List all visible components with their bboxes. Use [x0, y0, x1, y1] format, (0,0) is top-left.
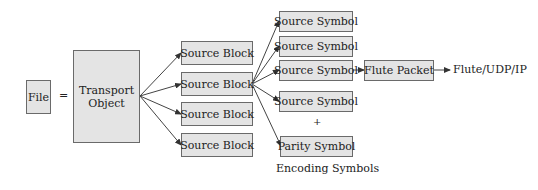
file-box: File [26, 80, 51, 114]
equals-sign: = [59, 89, 68, 102]
source-block-2: Source Block [181, 72, 253, 96]
source-symbol-label: Source Symbol [274, 40, 358, 53]
source-block-label: Source Block [180, 78, 254, 91]
source-block-label: Source Block [180, 108, 254, 121]
source-block-4: Source Block [181, 133, 253, 157]
file-label: File [28, 91, 49, 104]
source-symbol-label: Source Symbol [274, 15, 358, 28]
flute-packet: Flute Packet [364, 60, 434, 81]
source-symbol-1: Source Symbol [279, 11, 353, 32]
source-block-1: Source Block [181, 41, 253, 65]
source-block-label: Source Block [180, 139, 254, 152]
source-symbol-3: Source Symbol [279, 60, 353, 81]
plus-sign: + [313, 116, 321, 127]
transport-object-line1: Transport [79, 84, 134, 97]
source-symbol-label: Source Symbol [274, 64, 358, 77]
transport-object-box: Transport Object [73, 50, 140, 143]
flute-packet-label: Flute Packet [364, 64, 434, 77]
parity-symbol: Parity Symbol [280, 136, 353, 157]
source-symbol-2: Source Symbol [279, 36, 353, 57]
encoding-symbols-caption: Encoding Symbols [276, 162, 379, 175]
source-symbol-4: Source Symbol [279, 91, 353, 112]
parity-symbol-label: Parity Symbol [278, 140, 356, 153]
source-block-3: Source Block [181, 102, 253, 126]
source-block-label: Source Block [180, 47, 254, 60]
output-protocol-label: Flute/UDP/IP [453, 63, 527, 76]
source-symbol-label: Source Symbol [274, 95, 358, 108]
transport-object-line2: Object [88, 97, 125, 110]
